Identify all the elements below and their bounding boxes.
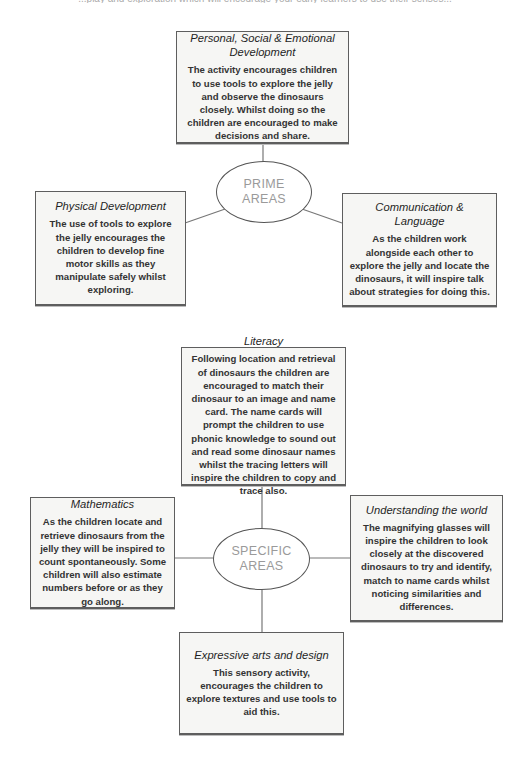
box-literacy: Literacy Following location and retrieva… — [181, 347, 346, 486]
box-expressive-arts-design: Expressive arts and design This sensory … — [179, 632, 344, 735]
box-title: Communication & Language — [349, 200, 490, 228]
box-text: The activity encourages children to use … — [183, 63, 342, 142]
hub-label-line2: AREAS — [242, 192, 286, 207]
hub-specific-areas: SPECIFIC AREAS — [213, 528, 310, 590]
box-text: The use of tools to explore the jelly en… — [42, 217, 179, 296]
box-text: As the children locate and retrieve dino… — [37, 515, 168, 607]
box-title: Expressive arts and design — [194, 648, 328, 662]
box-title: Understanding the world — [366, 503, 487, 517]
box-text: Following location and retrieval of dino… — [188, 352, 339, 497]
box-physical-development: Physical Development The use of tools to… — [35, 191, 186, 306]
hub-label-line1: SPECIFIC — [231, 544, 291, 559]
box-text: The magnifying glasses will inspire the … — [357, 521, 496, 613]
hub-label-line2: AREAS — [240, 559, 284, 574]
box-text: This sensory activity, encourages the ch… — [186, 666, 337, 719]
box-communication-language: Communication & Language As the children… — [342, 193, 497, 307]
connector-physical — [185, 208, 228, 223]
box-title: Physical Development — [55, 199, 166, 213]
box-understanding-the-world: Understanding the world The magnifying g… — [350, 495, 503, 622]
hub-prime-areas: PRIME AREAS — [216, 161, 312, 223]
box-text: As the children work alongside each othe… — [349, 232, 490, 298]
hub-label-line1: PRIME — [243, 177, 284, 192]
box-title: Mathematics — [71, 497, 134, 511]
box-title: Personal, Social & Emotional Development — [183, 31, 342, 59]
box-title: Literacy — [244, 334, 283, 348]
connector-communication — [302, 209, 342, 223]
box-personal-social-emotional: Personal, Social & Emotional Development… — [176, 31, 349, 144]
box-mathematics: Mathematics As the children locate and r… — [30, 497, 175, 609]
